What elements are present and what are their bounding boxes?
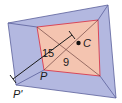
label-center: C — [83, 37, 91, 49]
label-p: P — [40, 70, 48, 82]
label-p-prime: P' — [13, 88, 23, 100]
label-15: 15 — [42, 47, 54, 59]
dilation-diagram: C 15 9 P P' — [0, 0, 122, 103]
label-9: 9 — [63, 56, 69, 68]
center-point — [76, 41, 80, 45]
diagram-canvas: C 15 9 P P' — [0, 0, 122, 103]
